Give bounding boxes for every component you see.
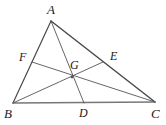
segment-cevian-be: [13, 62, 103, 103]
point-label-g: G: [70, 59, 79, 71]
vertex-label-a: A: [47, 3, 55, 16]
segment-side-ac: [51, 21, 155, 102]
vertex-label-c: C: [151, 107, 160, 120]
point-label-f: F: [19, 51, 26, 63]
point-label-d: D: [79, 107, 88, 119]
point-label-e: E: [110, 50, 117, 62]
segment-cevian-cf: [32, 62, 155, 102]
triangle-diagram: A B C D E F G: [0, 0, 166, 125]
centroid-point-g: [71, 76, 74, 79]
vertex-label-b: B: [4, 107, 12, 120]
